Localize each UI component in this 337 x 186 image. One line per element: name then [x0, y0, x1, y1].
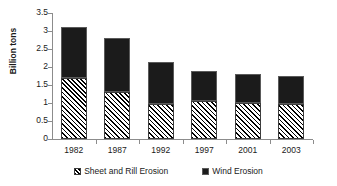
x-axis-tick-mark [139, 140, 140, 144]
bar-segment-sheet-and-rill-erosion [104, 92, 130, 139]
bar-segment-wind-erosion [278, 76, 304, 104]
legend-swatch-solid-icon [202, 168, 209, 175]
y-axis-tick-mark [48, 85, 52, 86]
legend-item-wind-erosion: Wind Erosion [202, 166, 263, 176]
y-axis-tick-label: 3.5 [22, 8, 48, 17]
y-axis-tick-label: 1.5 [22, 80, 48, 89]
y-axis-tick-label: 3 [22, 26, 48, 35]
legend-swatch-hatch-icon [74, 168, 81, 175]
x-axis-tick-mark [270, 140, 271, 144]
erosion-stacked-bar-chart: Billion tons 00.511.522.533.5 1982198719… [0, 0, 337, 186]
bar-group [278, 76, 304, 139]
bar-group [61, 27, 87, 139]
bar-segment-sheet-and-rill-erosion [191, 101, 217, 139]
bar-group [148, 62, 174, 139]
bar-segment-wind-erosion [61, 27, 87, 77]
y-axis-tick-labels: 00.511.522.533.5 [22, 0, 48, 186]
x-axis-tick-mark [226, 140, 227, 144]
y-axis-tick-mark [48, 103, 52, 104]
bar-segment-sheet-and-rill-erosion [148, 104, 174, 139]
bar-segment-wind-erosion [104, 38, 130, 92]
y-axis-tick-label: 2 [22, 62, 48, 71]
y-axis-tick-mark [48, 31, 52, 32]
x-axis-tick-label: 1982 [54, 145, 94, 155]
y-axis-title: Billion tons [8, 12, 18, 90]
legend-item-sheet-and-rill-erosion: Sheet and Rill Erosion [74, 166, 168, 176]
bars-layer [52, 13, 313, 139]
x-axis-tick-label: 1997 [184, 145, 224, 155]
x-axis-tick-labels: 198219871992199720012003 [52, 145, 313, 159]
y-axis-tick-label: 2.5 [22, 44, 48, 53]
legend-label-sheet-and-rill-erosion: Sheet and Rill Erosion [84, 166, 168, 176]
y-axis-tick-mark [48, 49, 52, 50]
bar-segment-wind-erosion [148, 62, 174, 104]
bar-segment-wind-erosion [191, 71, 217, 102]
y-axis-tick-mark [48, 139, 52, 140]
x-axis-tick-mark [313, 140, 314, 144]
bar-group [235, 74, 261, 139]
chart-legend: Sheet and Rill Erosion Wind Erosion [0, 166, 337, 176]
x-axis-tick-label: 2003 [271, 145, 311, 155]
bar-segment-sheet-and-rill-erosion [235, 103, 261, 139]
x-axis-tick-mark [183, 140, 184, 144]
x-axis-tick-label: 2001 [228, 145, 268, 155]
y-axis-tick-label: 0.5 [22, 116, 48, 125]
y-axis-tick-label: 1 [22, 98, 48, 107]
bar-group [191, 71, 217, 139]
y-axis-tick-mark [48, 67, 52, 68]
y-axis-tick-label: 0 [22, 134, 48, 143]
x-axis-tick-mark [96, 140, 97, 144]
bar-segment-wind-erosion [235, 74, 261, 103]
y-axis-tick-mark [48, 13, 52, 14]
x-axis-tick-label: 1987 [97, 145, 137, 155]
legend-label-wind-erosion: Wind Erosion [212, 166, 263, 176]
bar-segment-sheet-and-rill-erosion [278, 104, 304, 139]
bar-group [104, 38, 130, 139]
x-axis-tick-label: 1992 [141, 145, 181, 155]
bar-segment-sheet-and-rill-erosion [61, 78, 87, 139]
y-axis-tick-mark [48, 121, 52, 122]
